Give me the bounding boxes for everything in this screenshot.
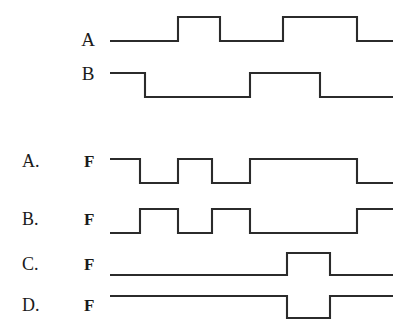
waveform-canvas: A B A. F B. F C. F D. F	[0, 0, 411, 335]
timing-diagram: A B A. F B. F C. F D. F	[0, 0, 411, 335]
option-f-label-c: F	[84, 255, 94, 274]
waveform-trace-option-b[interactable]	[110, 209, 393, 233]
option-f-label-b: F	[84, 210, 94, 229]
waveform-trace-a	[110, 17, 393, 41]
option-key-d: D.	[22, 295, 40, 315]
option-key-c: C.	[22, 254, 39, 274]
signal-label-a: A	[81, 29, 95, 50]
waveform-trace-option-d[interactable]	[110, 296, 393, 318]
waveform-trace-b	[110, 73, 393, 97]
waveform-trace-option-a[interactable]	[110, 159, 393, 183]
signal-label-b: B	[82, 63, 95, 84]
waveform-trace-option-c[interactable]	[110, 253, 393, 275]
option-key-b: B.	[22, 209, 39, 229]
option-key-a: A.	[22, 151, 40, 171]
option-f-label-d: F	[84, 296, 94, 315]
option-f-label-a: F	[84, 152, 94, 171]
